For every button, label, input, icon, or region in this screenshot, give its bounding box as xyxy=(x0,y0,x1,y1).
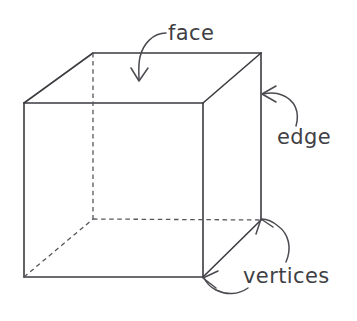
cube-diagram: face edge vertices xyxy=(0,0,357,321)
label-face: face xyxy=(168,21,214,45)
hidden-bottom-left-receding-edge xyxy=(24,219,93,277)
face-leader-line xyxy=(139,33,166,80)
top-face-left-receding-edge xyxy=(24,53,93,103)
vertices-lower-leader-line xyxy=(204,278,248,294)
vertices-upper-leader-line xyxy=(262,219,289,262)
label-edge: edge xyxy=(277,125,331,149)
top-face-right-receding-edge xyxy=(203,53,261,103)
cube-illustration: face edge vertices xyxy=(0,0,357,321)
label-vertices: vertices xyxy=(243,264,330,288)
hidden-bottom-back-edge xyxy=(93,219,261,220)
